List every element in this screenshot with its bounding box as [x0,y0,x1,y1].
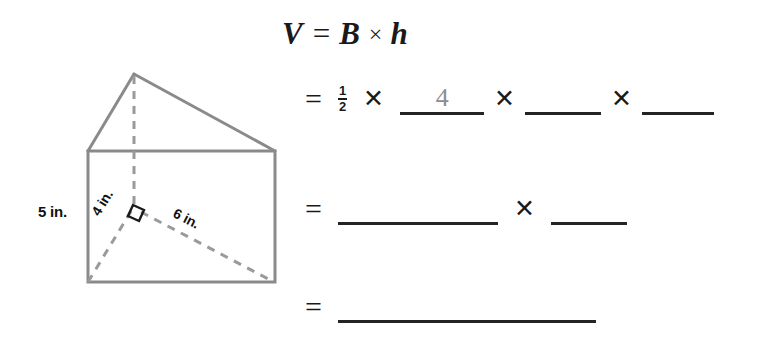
answer-blank-height[interactable] [551,192,627,225]
answer-blank-prism-height[interactable] [642,82,714,115]
answer-blank-base-area[interactable] [338,192,498,225]
multiplication-sign: ✕ [611,86,632,111]
answer-blank-base-length[interactable]: 4 [400,82,484,115]
answer-blank-volume[interactable] [338,290,596,323]
written-answer: 4 [436,85,449,111]
fraction-numerator: 1 [338,84,347,98]
equals-sign: = [305,194,322,224]
triangle-left-edge [88,74,134,151]
final-answer-line: = [305,290,596,323]
hidden-edge-4in [88,208,133,282]
prism-figure: 5 in. 4 in. 6 in. [0,40,300,320]
equation-work-area: V = B × h = 1 2 ✕ 4 ✕ [276,0,763,354]
equals-sign: = [305,84,322,114]
prism-drawing [0,40,300,320]
triangle-right-edge [134,74,275,151]
equals-sign: = [305,292,322,322]
multiplication-sign: ✕ [363,86,384,111]
multiplication-sign: ✕ [514,196,535,221]
substitution-line: = 1 2 ✕ 4 ✕ ✕ [305,82,714,115]
fraction-denominator: 2 [338,98,347,114]
equals-sign: = [313,16,330,52]
variable-h: h [390,16,408,52]
variable-b: B [339,16,361,52]
intermediate-line: = ✕ [305,192,627,225]
variable-v: V [282,16,304,52]
multiplication-sign: ✕ [494,86,515,111]
fraction-one-half: 1 2 [338,84,347,113]
worksheet-page: 5 in. 4 in. 6 in. V = B × h = 1 2 ✕ 4 [0,0,763,354]
dimension-label-5in: 5 in. [38,203,67,220]
answer-blank-base-height[interactable] [525,82,601,115]
formula-line: V = B × h [282,16,409,52]
multiplication-sign: × [369,21,383,48]
hidden-edge-6in [141,212,274,282]
right-angle-marker [128,205,144,221]
